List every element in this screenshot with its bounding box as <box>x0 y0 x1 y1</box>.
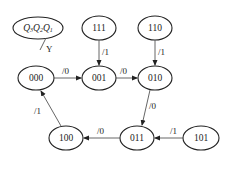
state-101: 101 <box>183 126 219 150</box>
svg-text:111: 111 <box>92 23 106 33</box>
svg-text:110: 110 <box>148 23 162 33</box>
svg-text:/0: /0 <box>62 66 70 76</box>
svg-text:/1: /1 <box>170 126 177 136</box>
transition-100-000: /1 <box>34 91 61 126</box>
state-000: 000 <box>18 66 54 90</box>
svg-text:/1: /1 <box>158 47 165 57</box>
transition-001-010: /0 <box>116 66 137 78</box>
svg-text:000: 000 <box>29 73 44 83</box>
svg-text:011: 011 <box>130 133 144 143</box>
legend-output-label: Y <box>46 44 53 54</box>
legend: Q3Q2Q1 Y <box>13 17 63 54</box>
transition-000-001: /0 <box>54 66 81 78</box>
state-001: 001 <box>82 66 116 90</box>
state-diagram: Q3Q2Q1 Y 000 001 010 111 110 011 101 100… <box>0 0 232 170</box>
state-110: 110 <box>138 16 172 40</box>
svg-text:/0: /0 <box>149 101 157 111</box>
svg-text:/1: /1 <box>102 47 109 57</box>
state-100: 100 <box>49 126 83 150</box>
svg-text:010: 010 <box>148 73 163 83</box>
state-111: 111 <box>82 16 116 40</box>
transition-110-010: /1 <box>155 40 165 65</box>
legend-state-label: Q3Q2Q1 <box>23 23 53 33</box>
svg-text:001: 001 <box>92 73 107 83</box>
svg-text:/0: /0 <box>120 66 128 76</box>
svg-text:/0: /0 <box>97 126 105 136</box>
svg-text:101: 101 <box>194 133 209 143</box>
transition-010-011: /0 <box>142 90 157 125</box>
transition-101-011: /1 <box>155 126 183 138</box>
state-011: 011 <box>120 126 154 150</box>
svg-text:/1: /1 <box>34 106 41 116</box>
state-010: 010 <box>138 66 172 90</box>
svg-text:100: 100 <box>59 133 74 143</box>
transition-011-100: /0 <box>84 126 120 138</box>
transition-111-001: /1 <box>99 40 109 65</box>
